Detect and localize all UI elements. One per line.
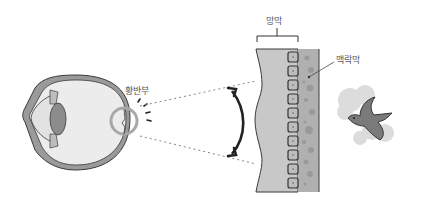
retina-bracket: [257, 28, 298, 42]
choroid-label: 맥락막: [336, 53, 360, 66]
emphasis-marks: [138, 99, 151, 121]
retina-section: [255, 28, 334, 192]
retina-label: 망막: [266, 14, 282, 27]
eye-retina-diagram: [0, 0, 424, 202]
projection-lines: [140, 81, 256, 164]
lens: [50, 103, 66, 135]
macula-label: 황반부: [125, 84, 149, 97]
double-arrow-icon: [228, 88, 243, 156]
